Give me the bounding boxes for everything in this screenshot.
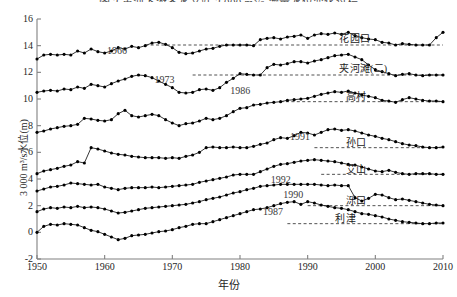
x-tick-label: 1980 [220, 262, 260, 272]
x-tick-label: 2000 [355, 262, 395, 272]
series-label-高村: 高村 [346, 88, 366, 103]
series-艾山 [35, 158, 444, 192]
year-annotation-1987: 1987 [263, 206, 283, 217]
series-label-泺口: 泺口 [346, 192, 366, 207]
series-花园口 [35, 31, 444, 61]
y-tick-label: 14 [7, 41, 33, 51]
series-label-花园口: 花园口 [339, 30, 370, 45]
y-tick-label: 16 [7, 14, 33, 24]
series-利津 [35, 200, 444, 241]
x-tick-label: 2010 [423, 262, 457, 272]
year-annotation-1991: 1991 [290, 131, 310, 142]
year-annotation-1973: 1973 [154, 74, 174, 85]
line-chart-canvas [0, 0, 457, 297]
y-tick-label: 2 [7, 201, 33, 211]
x-tick-label: 1970 [152, 262, 192, 272]
y-tick-label: 8 [7, 121, 33, 131]
series-label-孙口: 孙口 [346, 134, 366, 149]
year-annotation-1990: 1990 [283, 189, 303, 200]
y-tick-label: 12 [7, 67, 33, 77]
y-tick-label: 6 [7, 147, 33, 157]
x-axis-label: 年份 [0, 276, 457, 292]
year-annotation-1986: 1986 [230, 85, 250, 96]
series-孙口 [35, 127, 444, 175]
year-annotation-1966: 1966 [107, 45, 127, 56]
x-tick-label: 1960 [85, 262, 125, 272]
y-tick-label: 4 [7, 174, 33, 184]
figure-root: 图 3 黄河下游各水文站 3 000 m³/s 流量水位变化过程 3 000 m… [0, 0, 457, 297]
y-tick-label: 0 [7, 227, 33, 237]
x-tick-label: 1950 [17, 262, 57, 272]
series-label-艾山: 艾山 [346, 161, 366, 176]
series-label-利津: 利津 [335, 210, 355, 225]
x-tick-label: 1990 [288, 262, 328, 272]
y-tick-label: 10 [7, 94, 33, 104]
year-annotation-1992: 1992 [271, 174, 291, 185]
series-label-夹河滩(二): 夹河滩(二) [339, 60, 387, 75]
series-泺口 [35, 183, 444, 215]
